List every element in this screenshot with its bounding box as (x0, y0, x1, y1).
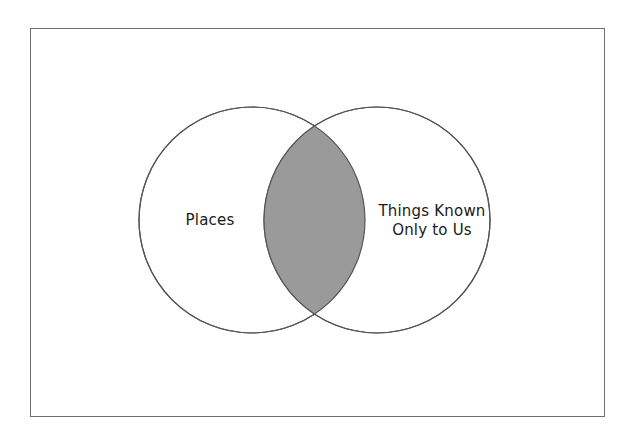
right-circle-label-line-1: Things Known (362, 202, 502, 221)
right-circle-label-line-2: Only to Us (362, 221, 502, 240)
venn-diagram (0, 0, 640, 438)
left-circle-label: Places (140, 211, 280, 230)
left-circle-label-line-1: Places (140, 211, 280, 230)
right-circle-label: Things Known Only to Us (362, 202, 502, 240)
diagram-canvas: Places Things Known Only to Us (0, 0, 640, 438)
